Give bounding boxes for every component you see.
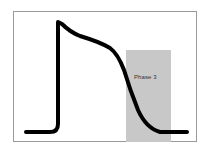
phase-3-label: Phase 3 <box>134 74 157 80</box>
action-potential-diagram <box>0 0 209 160</box>
